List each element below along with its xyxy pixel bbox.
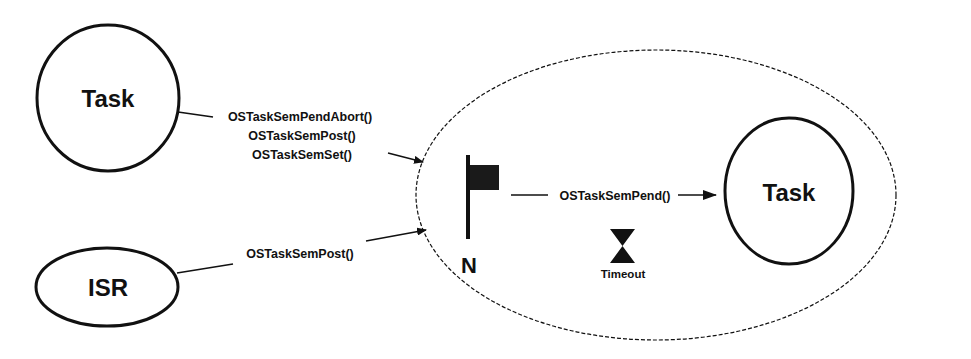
arrow-line xyxy=(388,153,423,162)
timeout-indicator: Timeout xyxy=(601,229,646,280)
edge-label-sem-pend: OSTaskSemPend() xyxy=(560,189,671,203)
edge-label-pend-abort: OSTaskSemPendAbort() xyxy=(228,110,372,124)
timeout-label: Timeout xyxy=(601,268,646,280)
left-task-label: Task xyxy=(82,85,136,112)
hourglass-icon xyxy=(610,229,635,263)
connector-line xyxy=(178,112,213,117)
edge-isr-to-semaphore: OSTaskSemPost() xyxy=(177,230,426,273)
edge-label-sem-set: OSTaskSemSet() xyxy=(252,148,352,162)
connector-line xyxy=(177,264,233,273)
isr-label: ISR xyxy=(88,274,128,301)
right-task-label: Task xyxy=(763,179,817,206)
flag-label-n: N xyxy=(461,253,477,278)
arrow-line xyxy=(366,230,426,241)
left-task-node: Task xyxy=(37,25,179,171)
semaphore-flag: N xyxy=(461,155,499,278)
flag-icon xyxy=(466,155,499,239)
right-task-node: Task xyxy=(725,118,853,264)
edge-label-isr-sem-post: OSTaskSemPost() xyxy=(246,247,353,261)
edge-label-sem-post: OSTaskSemPost() xyxy=(248,129,355,143)
isr-node: ISR xyxy=(36,248,178,326)
edge-task-to-semaphore: OSTaskSemPendAbort() OSTaskSemPost() OST… xyxy=(178,110,423,162)
diagram-canvas: Task OSTaskSemPendAbort() OSTaskSemPost(… xyxy=(0,0,971,359)
edge-semaphore-to-task: OSTaskSemPend() xyxy=(511,189,716,203)
